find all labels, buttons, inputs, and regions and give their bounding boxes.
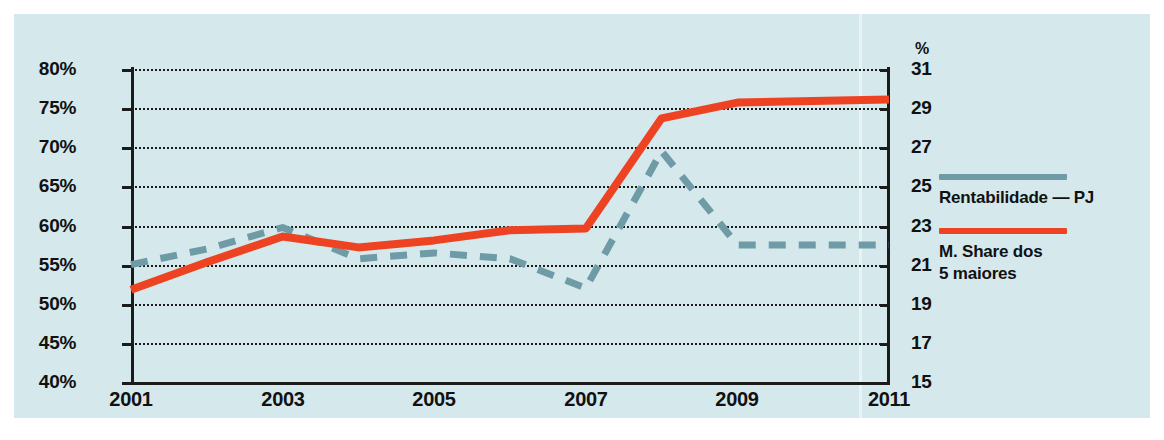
legend: Rentabilidade — PJ M. Share dos 5 maiore… [939, 174, 1154, 304]
legend-item-label: M. Share dos 5 maiores [939, 241, 1154, 284]
legend-item-label-line2: 5 maiores [939, 263, 1154, 284]
series-line [131, 151, 889, 288]
teal-line-swatch [939, 174, 1067, 180]
legend-item-label: Rentabilidade — PJ [939, 187, 1154, 208]
chart-screenshot: 80%75%70%65%60%55%50%45%40% 312927252321… [0, 0, 1164, 440]
chart-panel: 80%75%70%65%60%55%50%45%40% 312927252321… [14, 14, 1150, 418]
legend-item-market-share: M. Share dos 5 maiores [939, 228, 1154, 284]
legend-item-rentabilidade: Rentabilidade — PJ [939, 174, 1154, 208]
legend-item-label-line1: M. Share dos [939, 241, 1154, 262]
red-line-swatch [939, 228, 1067, 234]
